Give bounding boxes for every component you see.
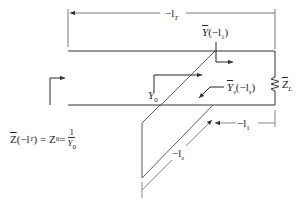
distance-to-stub-label: −l1 [237,118,250,132]
main-line [68,51,275,105]
admittance-at-stub-label: Y(−l1) [202,27,228,41]
stub-admittance-label: Ys(−ls) [227,82,255,96]
load-resistor-icon [271,77,279,91]
stub-length-label: −ls [172,148,184,162]
total-length-label: −lT [165,8,178,22]
characteristic-admittance-label: Y0 [148,90,158,104]
load-impedance-label: ZL [282,79,292,93]
fraction: 1 Y0 [67,127,76,152]
transmission-line-diagram [0,0,305,211]
input-impedance-equation: Z(−lT) = Z0 = 1 Y0 [10,127,76,152]
